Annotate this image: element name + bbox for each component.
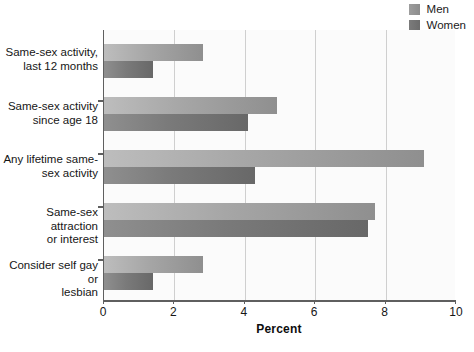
bar-men-4 <box>104 256 203 273</box>
category-label-2-line2: sex activity <box>0 167 98 181</box>
category-label-0-line2: last 12 months <box>0 60 98 74</box>
legend-swatch-men-icon <box>409 4 420 15</box>
bar-men-0 <box>104 44 203 61</box>
x-tick-label-8: 8 <box>381 305 388 319</box>
plot-area <box>103 30 455 300</box>
legend-label-men: Men <box>427 3 449 16</box>
x-tick-mark-2 <box>173 300 174 304</box>
x-tick-label-2: 2 <box>170 305 177 319</box>
x-tick-mark-10 <box>455 300 456 304</box>
x-tick-label-6: 6 <box>311 305 318 319</box>
category-label-0: Same-sex activity, last 12 months <box>0 46 98 73</box>
bar-men-1 <box>104 97 277 114</box>
x-axis-title: Percent <box>103 322 455 336</box>
category-label-4-line2: lesbian <box>0 286 98 300</box>
category-label-3-line2: or interest <box>0 233 98 247</box>
category-label-1-line1: Same-sex activity <box>0 100 98 114</box>
x-tick-mark-0 <box>103 300 104 304</box>
x-tick-mark-8 <box>385 300 386 304</box>
bar-chart-figure: Men Women Same-sex activity, last 12 mon… <box>0 0 474 352</box>
x-tick-mark-4 <box>244 300 245 304</box>
category-label-0-line1: Same-sex activity, <box>0 46 98 60</box>
category-label-3: Same-sex attraction or interest <box>0 206 98 247</box>
legend-item-men: Men <box>409 3 466 16</box>
category-label-1: Same-sex activity since age 18 <box>0 100 98 127</box>
x-tick-label-0: 0 <box>100 305 107 319</box>
bar-women-2 <box>104 167 255 184</box>
category-label-2-line1: Any lifetime same- <box>0 153 98 167</box>
category-label-3-line1: Same-sex attraction <box>0 206 98 233</box>
bar-women-1 <box>104 114 248 131</box>
category-label-4: Consider self gay or lesbian <box>0 259 98 300</box>
x-axis-line <box>103 300 456 302</box>
bar-women-4 <box>104 273 153 290</box>
category-label-2: Any lifetime same- sex activity <box>0 153 98 180</box>
bar-women-0 <box>104 61 153 78</box>
bar-men-2 <box>104 150 424 167</box>
chart-legend: Men Women <box>409 3 466 32</box>
x-tick-label-4: 4 <box>240 305 247 319</box>
category-label-4-line1: Consider self gay or <box>0 259 98 286</box>
x-tick-label-10: 10 <box>449 305 462 319</box>
category-label-1-line2: since age 18 <box>0 114 98 128</box>
bar-women-3 <box>104 220 368 237</box>
x-tick-mark-6 <box>314 300 315 304</box>
bar-men-3 <box>104 203 375 220</box>
